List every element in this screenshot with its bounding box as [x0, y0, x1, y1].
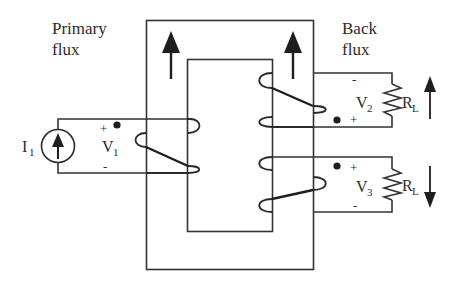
- transformer-diagram: Primary flux Back flux I 1 + V 1 -: [0, 0, 464, 283]
- current-arrow-up-icon: [424, 76, 436, 119]
- v1-plus: +: [100, 121, 107, 136]
- source-label: I: [22, 138, 27, 155]
- secondary-winding-bottom: + V 3 - R L: [259, 157, 436, 213]
- flux-arrow-left-icon: [162, 31, 180, 79]
- primary-flux-label-line1: Primary: [52, 19, 107, 38]
- rl-top-subscript: L: [412, 102, 419, 114]
- rl-bottom-subscript: L: [412, 185, 419, 197]
- v1-minus: -: [103, 159, 107, 174]
- back-flux-label-line1: Back: [342, 19, 377, 38]
- v1-subscript: 1: [113, 146, 119, 158]
- primary-winding: [136, 119, 200, 173]
- v2-minus: -: [352, 72, 356, 87]
- primary-circuit: I 1 + V 1 -: [22, 119, 192, 174]
- current-arrow-down-icon: [424, 166, 436, 208]
- current-source-icon: [42, 130, 75, 163]
- v3-minus: -: [353, 198, 357, 213]
- primary-flux-label-line2: flux: [52, 40, 80, 59]
- v2-plus: +: [350, 112, 357, 127]
- source-subscript: 1: [29, 146, 35, 158]
- v1-polarity-dot: [113, 121, 120, 128]
- load-resistor-bottom-icon: [384, 169, 401, 200]
- v2-subscript: 2: [367, 102, 373, 114]
- flux-arrow-right-icon: [284, 31, 302, 79]
- secondary-winding-top: - V 2 + R L: [259, 72, 436, 127]
- v3-plus: +: [350, 160, 357, 175]
- v2-polarity-dot: [333, 116, 340, 123]
- v3-subscript: 3: [367, 186, 373, 198]
- load-resistor-top-icon: [384, 84, 401, 116]
- v3-polarity-dot: [333, 162, 340, 169]
- back-flux-label-line2: flux: [342, 40, 370, 59]
